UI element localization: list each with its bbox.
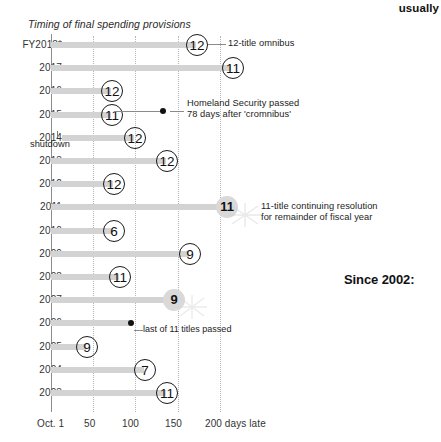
omnibus-leader bbox=[208, 44, 226, 45]
table-row: 20099 bbox=[0, 243, 441, 266]
count-marker-2005: 9 bbox=[76, 336, 98, 358]
chart-title: Timing of final spending provisions bbox=[28, 18, 191, 30]
bar-2007 bbox=[51, 297, 173, 303]
bar-2003 bbox=[51, 390, 166, 396]
count-marker-2008: 11 bbox=[109, 266, 131, 288]
bar-FY2018* bbox=[51, 42, 196, 48]
table-row: 20079 bbox=[0, 289, 441, 312]
xtick-50: 50 bbox=[84, 418, 95, 429]
count-marker-FY2018*: 12 bbox=[186, 34, 208, 56]
table-row: 20106 bbox=[0, 220, 441, 243]
count-marker-2017: 11 bbox=[222, 57, 244, 79]
cr-callout-line1: 11-title continuing resolution bbox=[261, 201, 378, 213]
count-marker-2010: 6 bbox=[103, 220, 125, 242]
xtick-100: 100 bbox=[122, 418, 139, 429]
bar-2017 bbox=[51, 65, 231, 71]
shutdown-label: shutdown bbox=[30, 139, 70, 149]
headline-fragment: usually bbox=[399, 2, 439, 14]
count-marker-2009: 9 bbox=[179, 243, 201, 265]
last-titles-leader bbox=[134, 330, 143, 331]
count-marker-2015: 11 bbox=[101, 104, 123, 126]
burst-2011 bbox=[228, 202, 262, 228]
homeland-leader-long bbox=[114, 111, 162, 112]
burst-2007 bbox=[176, 294, 208, 320]
count-marker-2004: 7 bbox=[134, 359, 156, 381]
table-row: 20047 bbox=[0, 359, 441, 382]
last-titles-callout: last of 11 titles passed bbox=[143, 324, 231, 334]
omnibus-callout: 12-title omnibus bbox=[228, 38, 294, 50]
table-row: 201212 bbox=[0, 173, 441, 196]
xtick-150: 150 bbox=[165, 418, 182, 429]
xtick-200: 200 days late bbox=[205, 418, 266, 429]
homeland-callout-line1: Homeland Security passed bbox=[187, 98, 299, 110]
table-row: 20059 bbox=[0, 336, 441, 359]
cr-callout-line2: for remainder of fiscal year bbox=[261, 212, 372, 224]
table-row: 201312 bbox=[0, 150, 441, 173]
homeland-leader-short bbox=[170, 111, 184, 112]
table-row: FY2018*12 bbox=[0, 34, 441, 57]
xtick-oct1: Oct. 1 bbox=[37, 418, 64, 429]
count-marker-2012: 12 bbox=[103, 173, 125, 195]
count-marker-2016: 12 bbox=[101, 80, 123, 102]
bar-2004 bbox=[51, 367, 144, 373]
bar-2009 bbox=[51, 251, 189, 257]
count-marker-2013: 12 bbox=[156, 150, 178, 172]
bar-2011 bbox=[51, 204, 226, 210]
homeland-callout-line2: 78 days after 'cromnibus' bbox=[187, 109, 291, 121]
count-marker-2014: 12 bbox=[124, 127, 146, 149]
bar-2013 bbox=[51, 158, 166, 164]
shutdown-tick bbox=[57, 131, 58, 138]
x-axis-labels: Oct. 1 50 100 150 200 days late bbox=[0, 418, 441, 434]
count-marker-2003: 11 bbox=[156, 382, 178, 404]
table-row: 200811 bbox=[0, 266, 441, 289]
chart-plot-area: FY2018*122017112016122015112014122013122… bbox=[0, 30, 441, 412]
table-row: 200311 bbox=[0, 382, 441, 405]
bar-2006 bbox=[51, 320, 131, 326]
dot-marker-2006 bbox=[128, 320, 134, 326]
table-row: 201711 bbox=[0, 57, 441, 80]
homeland-dot bbox=[160, 108, 166, 114]
